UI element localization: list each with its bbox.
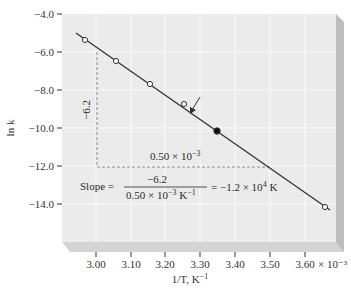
x-tick-label: 3.20	[155, 258, 175, 270]
panel-bottom	[62, 242, 344, 252]
x-scale-note: × 10⁻³	[318, 258, 348, 270]
x-tick-label: 3.00	[86, 258, 106, 270]
data-point	[113, 58, 118, 63]
y-tick-label: −8.0	[34, 84, 54, 96]
rise-label: −6.2	[80, 100, 92, 120]
svg-text:Slope =: Slope =	[80, 180, 114, 192]
svg-text:0.50 × 10−3 K−1: 0.50 × 10−3 K−1	[126, 188, 196, 201]
data-point	[322, 204, 327, 209]
data-point	[181, 101, 186, 106]
x-tick-label: 3.60	[295, 258, 315, 270]
y-axis-title: ln k	[4, 119, 16, 136]
svg-text:−6.2: −6.2	[147, 173, 167, 185]
x-axis-title: 1/T, K−1	[172, 272, 208, 285]
y-tick-label: −4.0	[34, 8, 54, 20]
x-axis: 3.00 3.10 3.20 3.30 3.40 3.50 3.60 × 10⁻…	[86, 252, 347, 285]
panel-side	[336, 14, 344, 252]
svg-text:= −1.2 × 104 K: = −1.2 × 104 K	[211, 180, 277, 193]
x-tick-label: 3.10	[121, 258, 141, 270]
y-tick-label: −12.0	[29, 160, 55, 172]
data-point-highlighted	[214, 128, 220, 134]
chart: −4.0 −6.0 −8.0 −10.0 −12.0 −14.0 ln k 3.…	[0, 0, 351, 291]
y-tick-label: −6.0	[34, 46, 54, 58]
data-point	[147, 81, 152, 86]
x-tick-label: 3.50	[260, 258, 280, 270]
y-tick-label: −10.0	[29, 122, 55, 134]
x-tick-label: 3.40	[225, 258, 245, 270]
y-tick-label: −14.0	[29, 198, 55, 210]
data-point	[82, 37, 87, 42]
x-tick-label: 3.30	[190, 258, 210, 270]
y-axis: −4.0 −6.0 −8.0 −10.0 −12.0 −14.0 ln k	[4, 8, 62, 210]
